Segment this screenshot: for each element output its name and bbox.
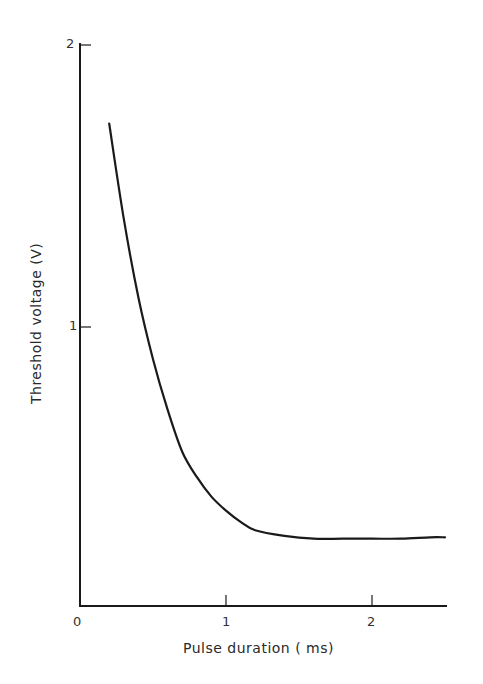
- x-axis-title: Pulse duration ( ms): [183, 640, 334, 656]
- x-tick-label-1: 1: [222, 614, 230, 629]
- data-curve: [109, 124, 445, 539]
- y-tick-label-2: 2: [66, 36, 74, 51]
- y-axis-title: Threshold voltage (V): [28, 243, 44, 404]
- y-tick-label-1: 1: [69, 318, 77, 333]
- x-tick-label-2: 2: [367, 614, 375, 629]
- x-tick-label-0: 0: [73, 614, 81, 629]
- chart-canvas: [0, 0, 483, 684]
